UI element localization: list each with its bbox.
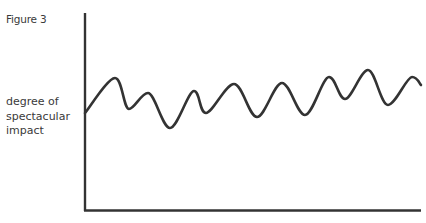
- chart-canvas: [0, 0, 426, 223]
- impact-wave-line: [85, 70, 421, 128]
